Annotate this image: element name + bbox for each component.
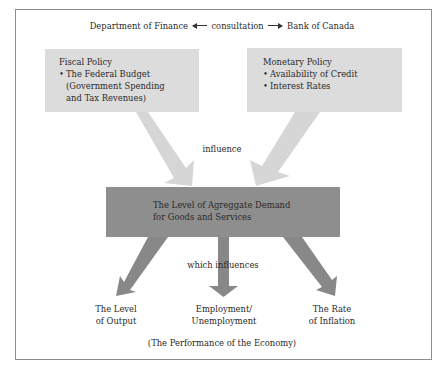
which-influences-label: which influences — [178, 259, 268, 271]
fiscal-to-demand-arrow — [118, 112, 194, 186]
monetary-bullet-interest: Interest Rates — [263, 80, 402, 92]
aggregate-demand-line1: The Level of Agreggate Demand — [153, 199, 340, 211]
aggregate-demand-line2: for Goods and Services — [153, 211, 340, 223]
outcome-inflation-line2: of Inflation — [296, 315, 368, 327]
monetary-to-demand-arrow — [250, 112, 320, 186]
fiscal-policy-box: Fiscal Policy The Federal Budget (Govern… — [45, 49, 199, 112]
arrow-left-icon — [193, 25, 207, 26]
monetary-policy-box: Monetary Policy Availability of Credit I… — [247, 48, 402, 112]
outcome-employment: Employment/ Unemployment — [185, 303, 263, 327]
fiscal-bullet-budget-cont1: (Government Spending — [59, 80, 199, 92]
demand-to-inflation-arrow — [283, 237, 337, 296]
outcome-employment-line2: Unemployment — [185, 315, 263, 327]
outcome-output-line2: of Output — [82, 315, 150, 327]
bank-of-canada-label: Bank of Canada — [287, 20, 354, 32]
outcome-output-line1: The Level — [82, 303, 150, 315]
aggregate-demand-box: The Level of Agreggate Demand for Goods … — [106, 187, 340, 237]
department-of-finance-label: Department of Finance — [90, 20, 188, 32]
outcome-employment-line1: Employment/ — [185, 303, 263, 315]
fiscal-bullet-budget: The Federal Budget — [59, 68, 199, 80]
consultation-line: Department of Finance consultation Bank … — [0, 19, 444, 32]
influence-label: influence — [190, 143, 254, 155]
fiscal-bullet-budget-cont2: and Tax Revenues) — [59, 92, 199, 104]
fiscal-policy-title: Fiscal Policy — [59, 56, 199, 68]
outcome-output: The Level of Output — [82, 303, 150, 327]
consultation-label: consultation — [211, 20, 263, 32]
arrow-right-icon — [268, 25, 282, 26]
outcome-inflation-line1: The Rate — [296, 303, 368, 315]
economy-performance-caption: (The Performance of the Economy) — [112, 337, 332, 349]
monetary-policy-title: Monetary Policy — [263, 56, 402, 68]
demand-to-output-arrow — [116, 237, 168, 296]
outcome-inflation: The Rate of Inflation — [296, 303, 368, 327]
monetary-bullet-credit: Availability of Credit — [263, 68, 402, 80]
